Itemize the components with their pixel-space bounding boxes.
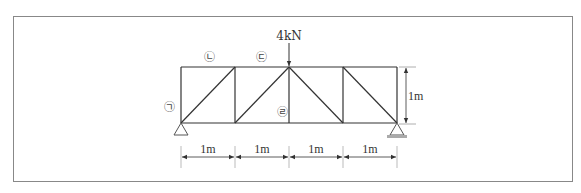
load-label: 4kN xyxy=(276,29,301,43)
roller-support-icon xyxy=(390,123,404,135)
member-label-d: ㉣ xyxy=(277,106,288,119)
truss xyxy=(181,67,397,123)
diagonal-member-3 xyxy=(343,67,397,123)
member-label-c: ㉢ xyxy=(256,51,267,64)
pin-support-icon xyxy=(174,123,188,135)
height-label: 1m xyxy=(408,89,424,103)
dimensions: 1m1m1m1m xyxy=(181,142,397,168)
member-label-a: ㉠ xyxy=(164,101,175,114)
diagonal-member-2 xyxy=(289,67,343,123)
dim-label-0: 1m xyxy=(200,142,216,156)
supports xyxy=(174,123,407,138)
diagonal-member-0 xyxy=(181,67,235,123)
dim-label-1: 1m xyxy=(254,142,270,156)
dim-label-2: 1m xyxy=(308,142,324,156)
dim-label-3: 1m xyxy=(362,142,378,156)
member-label-b: ㉡ xyxy=(204,51,215,64)
roller-support-base xyxy=(387,135,407,138)
truss-diagram: 1m1m1m1m 4kN ㉠ ㉡ ㉢ ㉣ 1m xyxy=(0,0,581,193)
